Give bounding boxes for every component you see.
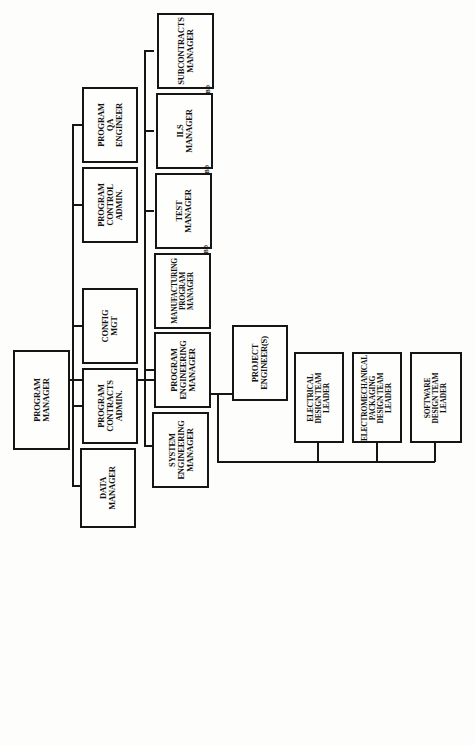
test-manager-box: TEST MANAGER TBD <box>155 173 212 249</box>
config-mgt-box: CONFIG MGT <box>82 288 138 364</box>
program-manager-label: PROGRAM MANAGER <box>33 378 51 421</box>
data-manager-box: DATA MANAGER <box>80 448 136 528</box>
program-qa-engineer-label: PROGRAM QA ENGINEER <box>97 103 124 147</box>
team-tick-electrical <box>317 441 319 462</box>
mgr-tick-test <box>144 210 154 212</box>
eng-to-project-connector <box>211 393 233 395</box>
program-contracts-admin-box: PROGRAM CONTRACTS ADMIN. <box>82 368 138 444</box>
electromechanical-packaging-design-team-leader-label: ELECTROMECHANICAL PACKAGING DESIGN TEAM … <box>361 354 393 440</box>
subcontracts-manager-label: SUBCONTRACTS MANAGER <box>177 17 195 85</box>
ils-manager-label: ILS MANAGER <box>176 109 194 152</box>
mgr-tick-engineering <box>144 369 154 371</box>
mgr-tick-ils <box>144 130 154 132</box>
mgr-tick-subcontracts <box>144 50 154 52</box>
eng-team-drop <box>217 393 219 463</box>
program-control-admin-box: PROGRAM CONTROL ADMIN. <box>82 167 138 243</box>
project-engineers-label: PROJECT ENGINEER(S) <box>251 336 269 390</box>
system-engineering-manager-label: SYSTEM ENGINEERING MANAGER <box>167 420 194 479</box>
team-tick-software <box>434 441 436 462</box>
staff-tick-contracts <box>72 405 82 407</box>
electromechanical-packaging-design-team-leader-box: ELECTROMECHANICAL PACKAGING DESIGN TEAM … <box>352 352 402 443</box>
program-control-admin-label: PROGRAM CONTROL ADMIN. <box>97 183 124 226</box>
project-engineers-box: PROJECT ENGINEER(S) <box>232 325 288 401</box>
software-design-team-leader-box: SOFTWARE DESIGN TEAM LEADER <box>410 352 462 443</box>
staff-tick-control <box>72 204 82 206</box>
software-design-team-leader-label: SOFTWARE DESIGN TEAM LEADER <box>424 372 448 423</box>
program-manager-box: PROGRAM MANAGER <box>13 350 70 450</box>
program-qa-engineer-box: PROGRAM QA ENGINEER <box>82 87 138 163</box>
electrical-design-team-leader-label: ELECTRICAL DESIGN TEAM LEADER <box>307 372 331 423</box>
staff-tick-qa <box>72 124 82 126</box>
data-manager-label: DATA MANAGER <box>99 466 117 509</box>
manager-spine <box>144 50 146 446</box>
staff-spine <box>72 124 74 486</box>
electrical-design-team-leader-box: ELECTRICAL DESIGN TEAM LEADER <box>294 352 344 443</box>
team-tick-electromech <box>376 441 378 462</box>
ils-manager-box: ILS MANAGER TBD <box>156 93 213 169</box>
system-engineering-manager-box: SYSTEM ENGINEERING MANAGER <box>152 412 209 488</box>
staff-tick-config <box>72 325 82 327</box>
test-manager-label: TEST MANAGER <box>175 189 193 232</box>
team-bus <box>217 461 435 463</box>
manufacturing-program-manager-label: MANUFACTURING PROGRAM MANAGER <box>171 258 195 324</box>
program-engineering-manager-box: PROGRAM ENGINEERING MANAGER <box>154 332 211 408</box>
program-contracts-admin-label: PROGRAM CONTRACTS ADMIN. <box>97 380 124 432</box>
manufacturing-program-manager-box: MANUFACTURING PROGRAM MANAGER <box>154 253 211 329</box>
config-mgt-label: CONFIG MGT <box>101 310 119 343</box>
subcontracts-manager-box: SUBCONTRACTS MANAGER TBD <box>157 13 214 89</box>
program-engineering-manager-label: PROGRAM ENGINEERING MANAGER <box>169 340 196 399</box>
